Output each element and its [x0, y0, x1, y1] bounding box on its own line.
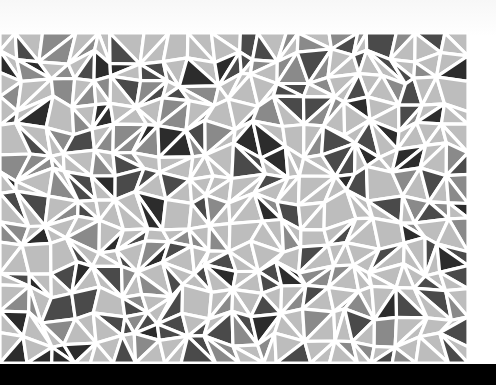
mosaic-tile	[374, 317, 396, 347]
triangle-mosaic	[0, 33, 468, 363]
bottom-black-band	[0, 364, 496, 385]
mosaic-tile	[162, 199, 191, 230]
mosaic-svg	[0, 33, 468, 363]
